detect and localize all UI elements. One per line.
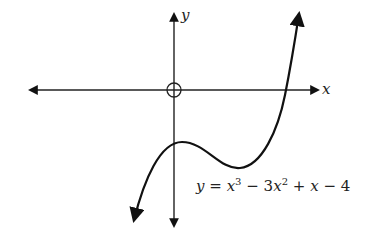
- equation-label: y = x3 − 3x2 + x − 4: [196, 176, 350, 195]
- x-axis-label: x: [322, 80, 330, 98]
- y-axis-label: y: [181, 6, 189, 24]
- graph-canvas: [0, 0, 371, 237]
